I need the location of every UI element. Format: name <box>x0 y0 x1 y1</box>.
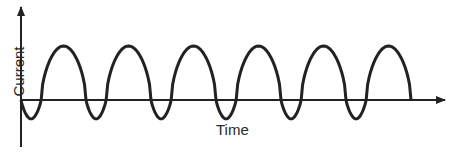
x-axis-label: Time <box>216 121 249 138</box>
y-axis-label: Current <box>10 42 27 102</box>
current-waveform <box>21 46 411 119</box>
